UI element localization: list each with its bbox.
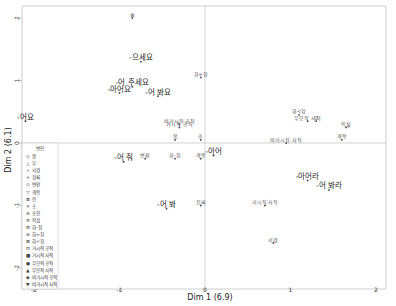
data-point: 조 [198,133,203,140]
point-label: 개항 [337,133,347,140]
data-point: 진짜 [196,199,206,206]
data-point: -어 봐요 [145,87,171,97]
legend-label: 진 [32,196,36,202]
point-label: 진짜 [196,199,206,206]
legend-entry: ■거시적 사적 [26,252,53,259]
data-point: 거시적 사적 [252,199,279,206]
point-label: ⊠ [130,12,134,18]
data-point: -어요 [17,112,34,122]
y-tick-label: -1 [13,202,20,208]
data-point: -아어 [205,146,222,156]
legend-label: 변환 [32,181,41,187]
point-label: -어 봐 [157,199,176,209]
point-label: -어 봐요 [145,87,171,97]
data-point: 변환 [140,152,150,159]
x-tick-label: 2 [374,286,378,293]
legend-symbol-icon: ◇ [26,154,30,159]
data-point: 화-청 [169,152,181,159]
point-label: 화-청 [169,152,181,159]
legend-symbol-icon: ⊟ [26,246,30,251]
legend-symbol-icon: ⊠ [26,239,30,244]
point-label: 거시적 사적 [252,199,279,206]
legend-symbol-icon: ⊛ [26,232,30,237]
legend-entry: ⊕조전 [26,210,40,216]
legend-label: 개항 [32,189,41,196]
legend-label: 봄 [32,154,36,159]
legend-entry: ◇변환 [26,181,41,187]
legend-entry: ▽개항 [26,189,41,196]
x-tick-label: 1 [289,286,293,293]
data-point: 거시적 공적 [166,121,193,128]
y-tick-label: 0 [13,141,20,145]
y-axis-title: Dim 2 (6.1) [4,127,13,172]
data-point: ⊠ [130,12,134,19]
data-point: -어 봐 [157,199,176,209]
legend-symbol-icon: + [26,168,30,173]
point-label: 비거시적 사적 [270,137,302,144]
legend-entry: ✲직설 [26,217,40,224]
legend-symbol-icon: ◆ [26,275,30,280]
point-label: -아어 [205,146,222,156]
data-point: 개항 [196,152,206,159]
legend-symbol-icon: △ [26,161,30,166]
legend-label: 우모적 사적 [32,267,53,274]
x-axis-title: Dim 1 (6.9) [187,293,232,302]
point-label: -아어라 [296,171,320,181]
legend-label: 조전 [32,210,40,216]
point-label: 조 [198,133,203,139]
legend-symbol-icon: ✳ [26,204,30,209]
y-tick-label: 2 [13,16,20,20]
data-point: 서경 [268,237,278,244]
point-label: 부 [314,115,319,122]
legend-symbol-icon: ⊕ [26,211,30,216]
legend-symbol-icon: ■ [26,253,30,258]
data-point: 봄 [173,133,178,140]
y-tick-label: -2 [13,265,20,271]
legend-symbol-icon: ● [26,261,30,266]
legend-label: 서경 [32,167,40,174]
ca-biplot: -2-1012 210-1-2 Dim 1 (6.9) Dim 2 (6.1) … [0,0,396,306]
legend-label: 비거시적 공적 [32,274,57,281]
legend-symbol-icon: ◇ [26,182,30,187]
point-label: -어 봐라 [316,180,342,190]
legend-entry: +서경 [26,167,40,174]
point-label: -아어요 [108,84,132,94]
data-point: 직설 [341,121,351,128]
legend-symbol-icon: ▽ [26,190,30,195]
point-label: 서경 [268,237,278,244]
data-point: -어 줘 [114,152,133,162]
point-label: 화=청 [194,71,208,78]
legend-label: 우모적 공적 [32,260,53,267]
legend-label: 소 [32,204,36,209]
legend-label: 거시적 공적 [32,245,53,252]
legend-label: 거시적 사적 [32,252,53,259]
legend-symbol-icon: ⊠ [26,197,30,202]
point-label: 거시적 공적 [166,121,193,128]
point-label: -어요 [17,112,34,122]
data-point: -어 봐라 [316,180,342,190]
legend-label: 비거시적 사적 [32,281,57,288]
legend-symbol-icon: ▼ [26,282,30,287]
y-tick-label: 1 [13,78,20,82]
legend-symbol-icon: ▲ [26,268,30,273]
legend-symbol-icon: × [26,175,30,180]
data-point: -으세요 [129,53,153,62]
data-point: 화=청 [194,71,208,78]
point-label: -으세요 [129,53,153,62]
data-point: 부 [314,115,319,122]
x-tick-label: 0 [203,286,207,293]
data-points: -으세요-어 주세요-아어요-어 봐요-어요-어 줘-어 봐-아어-아어라-어 … [17,12,351,244]
legend-label: 직설 [32,217,40,224]
point-label: 변환 [140,152,150,158]
point-label: 개항 [196,152,206,159]
plot-frame [22,6,386,289]
legend: 변인 ◇봄△부+서경×청록◇변환▽개항⊠진✳소⊕조전✲직설⊞화-청⊛화=청⊠화<… [22,143,58,289]
legend-title: 변인 [36,145,44,151]
point-label: 봄 [173,133,178,139]
point-label: -어 줘 [114,152,133,162]
legend-symbol-icon: ⊞ [26,225,30,230]
data-point: -아어라 [296,171,320,181]
legend-symbol-icon: ✲ [26,218,30,223]
data-point: 개항 [337,133,347,140]
point-label: 직설 [341,121,351,128]
